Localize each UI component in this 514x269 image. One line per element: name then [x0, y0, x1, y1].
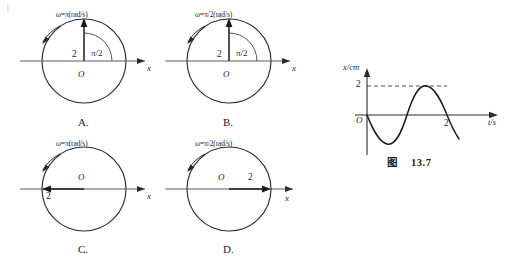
radius-vector-arrowhead: [262, 186, 271, 193]
option-d-diagram: [165, 137, 310, 245]
x-axis-arrowhead: [285, 186, 293, 192]
option-c-label[interactable]: C.: [78, 244, 88, 255]
graph-y-tick-label: 2: [356, 80, 361, 90]
graph-origin-label: O: [356, 116, 363, 125]
wave-graph-panel[interactable]: x/cm 2 O 2 t/s 图 13.7: [325, 60, 510, 180]
option-d-origin-label: O: [218, 173, 225, 182]
option-a-axis-label: x: [147, 64, 151, 73]
option-d-omega-label: ω=π/2(rad/s): [195, 140, 232, 148]
option-b-label[interactable]: B.: [223, 117, 233, 128]
option-c-axis-label: x: [147, 192, 151, 201]
wave-graph: [325, 60, 510, 165]
option-b-amplitude-label: 2: [217, 50, 222, 60]
option-a-label[interactable]: A.: [78, 117, 89, 128]
graph-x-axis-label: t/s: [488, 118, 496, 127]
option-b-omega-label: ω=π/2(rad/s): [195, 11, 232, 19]
figure-caption-label: 图: [387, 158, 398, 169]
option-b-origin-label: O: [223, 70, 230, 79]
option-d-amplitude-label: 2: [248, 173, 253, 183]
x-axis-arrowhead: [137, 186, 145, 192]
option-a-phase-label: π/2: [91, 49, 103, 58]
scan-artifact-mark: /: [3, 2, 11, 14]
graph-x-tick-label: 2: [444, 119, 449, 129]
option-b-phase-label: π/2: [236, 49, 248, 58]
option-d-label[interactable]: D.: [223, 244, 234, 255]
figure-root: / ω=π(rad/s) 2 π/2 O x A.: [0, 0, 514, 269]
option-c-origin-label: O: [78, 173, 85, 182]
option-c-omega-label: ω=π(rad/s): [56, 140, 88, 148]
x-axis-arrowhead: [282, 58, 290, 64]
option-a-diagram: [20, 6, 160, 118]
option-a-omega-label: ω=π(rad/s): [56, 11, 88, 19]
x-axis-arrowhead: [137, 58, 145, 64]
y-axis-arrowhead: [364, 68, 370, 77]
option-a-amplitude-label: 2: [72, 50, 77, 60]
option-b-diagram: [165, 6, 305, 118]
graph-y-axis-label: x/cm: [343, 63, 359, 72]
option-a-panel[interactable]: ω=π(rad/s) 2 π/2 O x A.: [20, 6, 160, 131]
option-c-amplitude-label: 2: [46, 192, 51, 202]
option-a-origin-label: O: [78, 70, 85, 79]
option-d-panel[interactable]: ω=π/2(rad/s) O 2 x D.: [165, 137, 310, 265]
option-b-panel[interactable]: ω=π/2(rad/s) 2 π/2 O x B.: [165, 6, 305, 131]
option-d-axis-label: x: [285, 194, 289, 203]
figure-caption-number: 13.7: [411, 158, 431, 169]
option-c-diagram: [20, 137, 160, 245]
option-b-axis-label: x: [292, 64, 296, 73]
option-c-panel[interactable]: ω=π(rad/s) O 2 x C.: [20, 137, 160, 265]
